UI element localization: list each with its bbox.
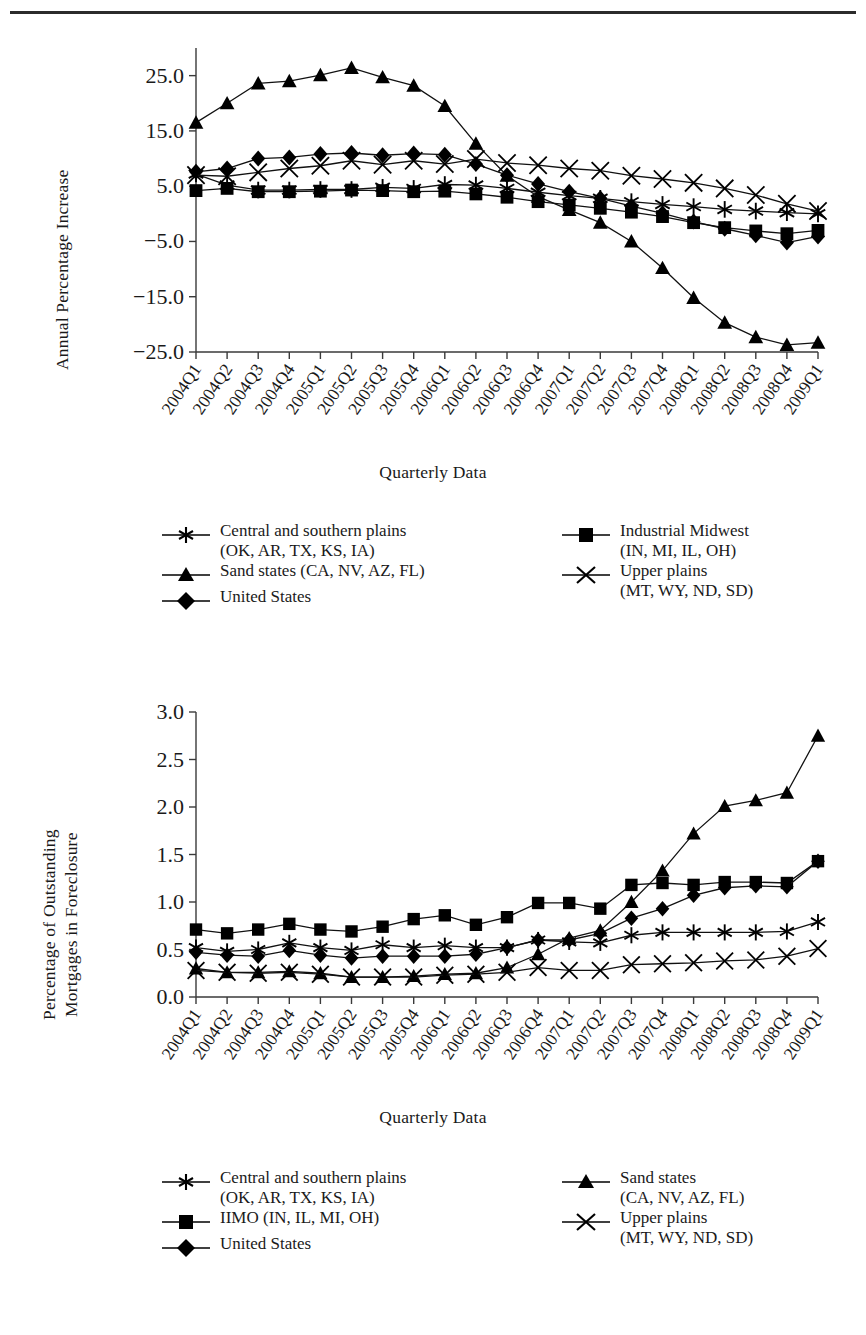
legend-item: IIMO (IN, IL, MI, OH) [160, 1208, 560, 1233]
y-axis-title-2-line2: Mortgages in Foreclosure [60, 829, 82, 1020]
legend-item: Central and southern plains (OK, AR, TX,… [160, 521, 560, 560]
legend-key-cross-icon [560, 1211, 612, 1233]
data-point-marker [252, 923, 264, 935]
data-point-marker [811, 335, 826, 348]
data-point-marker [314, 923, 326, 935]
data-point-marker [344, 145, 358, 161]
data-point-marker [189, 961, 203, 974]
figure-annual-percentage-increase: Annual Percentage Increase 25.015.05.0−5… [0, 30, 866, 630]
y-axis-tick-label: 2.0 [157, 794, 185, 819]
legend-label: Sand states (CA, NV, AZ, FL) [620, 1168, 744, 1207]
y-axis-tick-label: 25.0 [146, 63, 185, 88]
legend-2-right-column: Sand states (CA, NV, AZ, FL) Upper plain… [560, 1168, 753, 1260]
data-point-marker [190, 184, 203, 197]
y-axis-title-1: Annual Percentage Increase [52, 169, 73, 370]
legend-item: Central and southern plains (OK, AR, TX,… [160, 1168, 560, 1207]
legend-key-diamond-icon [160, 1237, 212, 1259]
data-point-marker [470, 919, 482, 931]
data-point-marker [252, 185, 265, 198]
data-point-marker [718, 221, 731, 234]
legend-item: Sand states (CA, NV, AZ, FL) [160, 561, 560, 586]
legend-1-left-column: Central and southern plains (OK, AR, TX,… [160, 521, 560, 613]
legend-1: Central and southern plains (OK, AR, TX,… [0, 521, 866, 613]
data-point-marker [532, 195, 545, 208]
legend-2-left-column: Central and southern plains (OK, AR, TX,… [160, 1168, 560, 1260]
legend-key-star-icon [160, 1171, 212, 1193]
data-point-marker [562, 184, 576, 200]
data-point-marker [376, 184, 389, 197]
data-point-marker [251, 948, 265, 964]
data-point-marker [345, 925, 357, 937]
legend-label: Central and southern plains (OK, AR, TX,… [220, 1168, 407, 1207]
data-point-marker [656, 901, 670, 917]
header-rule [10, 11, 856, 14]
data-point-marker [780, 786, 794, 799]
data-point-marker [438, 185, 451, 198]
data-point-marker [781, 227, 794, 240]
data-point-marker [812, 224, 825, 237]
data-point-marker [221, 927, 233, 939]
y-axis-tick-label: 1.0 [157, 889, 185, 914]
legend-key-diamond-icon [160, 590, 212, 612]
data-point-marker [655, 261, 670, 274]
chart-series [190, 855, 824, 940]
legend-label: Industrial Midwest (IN, MI, IL, OH) [620, 521, 749, 560]
legend-key-square-icon [560, 524, 612, 546]
data-point-marker [593, 215, 608, 228]
data-point-marker [501, 191, 514, 204]
legend-item: Sand states (CA, NV, AZ, FL) [560, 1168, 753, 1207]
data-point-marker [283, 918, 295, 930]
legend-key-cross-icon [560, 564, 612, 586]
y-axis-tick-label: 0.5 [157, 937, 185, 962]
data-point-marker [190, 923, 202, 935]
legend-label: Central and southern plains (OK, AR, TX,… [220, 521, 407, 560]
y-axis-tick-label: 2.5 [157, 747, 185, 772]
data-point-marker [625, 206, 638, 219]
data-point-marker [407, 146, 421, 162]
data-point-marker [314, 185, 327, 198]
data-point-marker [408, 913, 420, 925]
legend-label: United States [220, 1234, 311, 1254]
data-point-marker [531, 932, 545, 948]
x-axis-title-1: Quarterly Data [0, 462, 866, 483]
legend-label: Upper plains (MT, WY, ND, SD) [620, 1208, 753, 1247]
y-axis-tick-label: −25.0 [133, 339, 184, 364]
legend-label: United States [220, 587, 311, 607]
legend-label: Sand states (CA, NV, AZ, FL) [220, 561, 425, 581]
legend-key-star-icon [160, 524, 212, 546]
data-point-marker [656, 210, 669, 223]
data-point-marker [344, 61, 359, 74]
data-point-marker [470, 188, 483, 201]
data-point-marker [532, 897, 544, 909]
chart-series [189, 853, 825, 965]
y-axis-title-2-line1: Percentage of Outstanding [38, 829, 60, 1020]
data-point-marker [407, 185, 420, 198]
legend-label: Upper plains (MT, WY, ND, SD) [620, 561, 753, 600]
data-point-marker [221, 182, 234, 195]
legend-item: United States [160, 587, 560, 612]
legend-2: Central and southern plains (OK, AR, TX,… [0, 1168, 866, 1260]
y-axis-tick-label: 0.0 [157, 984, 185, 1009]
figure-page: Annual Percentage Increase 25.015.05.0−5… [0, 0, 866, 1335]
data-point-marker [594, 202, 607, 215]
data-point-marker [531, 947, 545, 960]
data-point-marker [220, 160, 234, 176]
data-point-marker [220, 947, 234, 963]
legend-item: United States [160, 1234, 560, 1259]
figure-foreclosure-percentage: Percentage of Outstanding Mortgages in F… [0, 690, 866, 1335]
data-point-marker [656, 877, 668, 889]
legend-item: Upper plains (MT, WY, ND, SD) [560, 1208, 753, 1247]
data-point-marker [469, 947, 483, 963]
legend-key-triangle-icon [560, 1171, 612, 1193]
data-point-marker [406, 78, 421, 91]
data-point-marker [625, 910, 639, 926]
y-axis-tick-label: −15.0 [133, 284, 184, 309]
data-point-marker [376, 921, 388, 933]
data-point-marker [375, 70, 390, 83]
data-point-marker [189, 945, 203, 961]
legend-1-right-column: Industrial Midwest (IN, MI, IL, OH) Uppe… [560, 521, 753, 613]
legend-label: IIMO (IN, IL, MI, OH) [220, 1208, 379, 1228]
data-point-marker [748, 330, 763, 343]
data-point-marker [376, 948, 390, 964]
data-point-marker [437, 99, 452, 112]
